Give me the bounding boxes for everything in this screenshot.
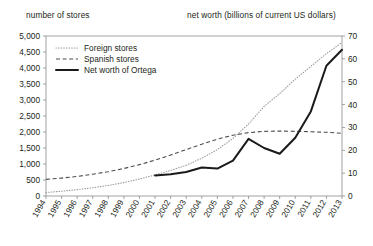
right-axis-tick-label: 10: [348, 168, 358, 178]
left-axis-tick-label: 3,500: [19, 79, 40, 89]
series-line-net-worth-of-ortega: [155, 50, 342, 176]
x-axis-tick-label: 2003: [170, 198, 188, 219]
x-axis-tick-label: 2008: [248, 198, 266, 219]
x-axis-ticks: 1994199519961997199819992000200120022003…: [30, 196, 344, 219]
left-axis-tick-label: 2,000: [19, 127, 40, 137]
right-axis-tick-label: 0: [348, 191, 353, 201]
x-axis-tick-label: 2010: [279, 198, 297, 219]
x-axis-tick-label: 2006: [217, 198, 235, 219]
left-axis-tick-label: 1,000: [19, 159, 40, 169]
left-axis-tick-label: 4,000: [19, 63, 40, 73]
right-axis-tick-label: 60: [348, 54, 358, 64]
legend-label: Spanish stores: [84, 54, 139, 64]
left-axis-tick-label: 2,500: [19, 111, 40, 121]
chart-legend: Foreign storesSpanish storesNet worth of…: [56, 43, 157, 75]
x-axis-tick-label: 1995: [45, 198, 63, 219]
right-axis-tick-label: 40: [348, 100, 358, 110]
line-chart-plot: 05001,0001,5002,0002,5003,0003,5004,0004…: [0, 0, 373, 246]
x-axis-tick-label: 1997: [77, 198, 95, 219]
right-axis-tick-label: 30: [348, 122, 358, 132]
x-axis-tick-label: 2002: [154, 198, 172, 219]
right-axis-tick-label: 70: [348, 31, 358, 41]
legend-label: Net worth of Ortega: [84, 65, 157, 75]
x-axis-tick-label: 2009: [264, 198, 282, 219]
chart-container: number of stores net worth (billions of …: [0, 0, 373, 246]
left-axis-caption: number of stores: [26, 10, 90, 20]
left-axis-tick-label: 3,000: [19, 95, 40, 105]
x-axis-tick-label: 2013: [326, 198, 344, 219]
x-axis-tick-label: 2011: [295, 198, 313, 219]
left-axis-tick-label: 1,500: [19, 143, 40, 153]
x-axis-tick-label: 2001: [139, 198, 157, 219]
x-axis-tick-label: 1998: [92, 198, 110, 219]
right-axis-tick-label: 50: [348, 77, 358, 87]
right-axis-caption: net worth (billions of current US dollar…: [187, 10, 336, 20]
left-axis-tick-label: 4,500: [19, 47, 40, 57]
left-axis-ticks: 05001,0001,5002,0002,5003,0003,5004,0004…: [19, 31, 46, 201]
x-axis-tick-label: 1999: [108, 198, 126, 219]
right-axis-ticks: 010203040506070: [342, 31, 358, 201]
right-axis-tick-label: 20: [348, 145, 358, 155]
x-axis-tick-label: 2000: [123, 198, 141, 219]
x-axis-tick-label: 2007: [232, 198, 250, 219]
left-axis-tick-label: 500: [26, 175, 40, 185]
x-axis-tick-label: 2012: [310, 198, 328, 219]
x-axis-tick-label: 1994: [30, 198, 48, 219]
series-line-spanish-stores: [46, 131, 342, 179]
left-axis-tick-label: 5,000: [19, 31, 40, 41]
legend-label: Foreign stores: [84, 43, 137, 53]
x-axis-tick-label: 1996: [61, 198, 79, 219]
x-axis-tick-label: 2004: [186, 198, 204, 219]
x-axis-tick-label: 2005: [201, 198, 219, 219]
